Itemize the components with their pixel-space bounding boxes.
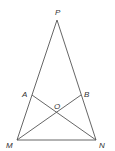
segment-pn bbox=[57, 20, 96, 140]
segment-bm bbox=[17, 95, 81, 140]
label-o: O bbox=[54, 102, 60, 111]
label-a: A bbox=[21, 90, 27, 99]
label-n: N bbox=[99, 141, 105, 150]
segment-pm bbox=[17, 20, 57, 140]
label-m: M bbox=[6, 141, 13, 150]
label-b: B bbox=[84, 90, 90, 99]
triangle-diagram: P A B O M N bbox=[0, 0, 115, 151]
segment-an bbox=[32, 95, 96, 140]
label-p: P bbox=[55, 8, 61, 17]
